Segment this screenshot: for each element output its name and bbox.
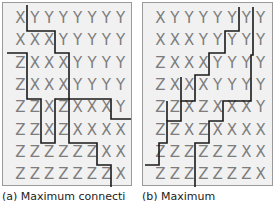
caption-b: (b) Maximum — [142, 190, 215, 201]
partition-lines-b — [143, 3, 274, 187]
partition-lines-a — [3, 3, 133, 187]
panel-b: XYYYYYYYXXXYYYYYZXXXYYYYZXXXYYYYZZXZXXXY… — [142, 2, 273, 186]
panel-a: XYYYYYYYXXXYYYYYZXXXYYYYZXXXYYYYZZXZXXXY… — [2, 2, 132, 186]
caption-a: (a) Maximum connecti — [2, 190, 125, 201]
